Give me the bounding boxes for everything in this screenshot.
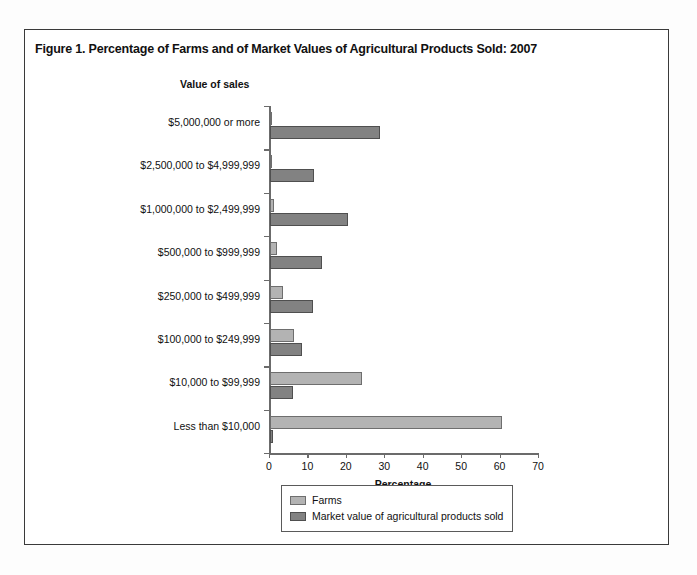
y-axis-tick bbox=[264, 280, 269, 281]
x-axis-tick-label: 30 bbox=[378, 460, 390, 472]
y-axis-tick-label: $5,000,000 or more bbox=[168, 116, 260, 128]
bar-market-value bbox=[270, 430, 273, 443]
y-axis-tick-label: $1,000,000 to $2,499,999 bbox=[140, 203, 260, 215]
x-axis-tick bbox=[500, 453, 501, 458]
bar-farms bbox=[270, 372, 362, 385]
bar-market-value bbox=[270, 386, 293, 399]
bar-farms bbox=[270, 242, 277, 255]
bar-group-row: $10,000 to $99,999 bbox=[269, 366, 538, 409]
legend-label: Farms bbox=[312, 494, 342, 506]
y-axis-tick bbox=[264, 193, 269, 194]
x-axis-tick-label: 0 bbox=[266, 460, 272, 472]
y-axis-title: Value of sales bbox=[180, 78, 249, 90]
bar-group-row: $2,500,000 to $4,999,999 bbox=[269, 149, 538, 192]
figure-panel: Figure 1. Percentage of Farms and of Mar… bbox=[24, 29, 669, 545]
bar-market-value bbox=[270, 213, 348, 226]
x-axis-tick bbox=[307, 453, 308, 458]
x-axis-tick bbox=[538, 453, 539, 458]
x-axis-tick-label: 70 bbox=[532, 460, 544, 472]
x-axis-tick bbox=[461, 453, 462, 458]
bar-chart-plot-area: $5,000,000 or more$2,500,000 to $4,999,9… bbox=[269, 106, 538, 453]
bar-farms bbox=[270, 199, 274, 212]
legend-swatch-icon bbox=[290, 512, 306, 521]
bar-group-row: $1,000,000 to $2,499,999 bbox=[269, 193, 538, 236]
y-axis-tick-label: $500,000 to $999,999 bbox=[158, 246, 260, 258]
bar-market-value bbox=[270, 126, 380, 139]
legend-item-market: Market value of agricultural products so… bbox=[290, 508, 504, 524]
bar-market-value bbox=[270, 343, 302, 356]
legend-swatch-icon bbox=[290, 496, 306, 505]
y-axis-tick bbox=[264, 453, 269, 454]
x-axis-tick-label: 50 bbox=[455, 460, 467, 472]
y-axis-tick bbox=[264, 236, 269, 237]
chart-legend: FarmsMarket value of agricultural produc… bbox=[281, 485, 513, 532]
x-axis-tick-label: 40 bbox=[417, 460, 429, 472]
bar-market-value bbox=[270, 256, 322, 269]
y-axis-tick-label: $2,500,000 to $4,999,999 bbox=[140, 159, 260, 171]
y-axis-tick-label: $10,000 to $99,999 bbox=[169, 376, 260, 388]
bar-group-row: Less than $10,000 bbox=[269, 410, 538, 453]
x-axis-tick-label: 20 bbox=[340, 460, 352, 472]
y-axis-tick bbox=[264, 410, 269, 411]
y-axis-tick bbox=[264, 323, 269, 324]
bar-group-row: $250,000 to $499,999 bbox=[269, 280, 538, 323]
bar-farms bbox=[270, 286, 283, 299]
y-axis-tick bbox=[264, 106, 269, 107]
bar-farms bbox=[270, 329, 294, 342]
bar-farms bbox=[270, 416, 502, 429]
legend-label: Market value of agricultural products so… bbox=[312, 510, 503, 522]
bar-farms bbox=[270, 155, 272, 168]
y-axis-tick-label: $250,000 to $499,999 bbox=[158, 290, 260, 302]
x-axis-tick bbox=[346, 453, 347, 458]
x-axis-tick bbox=[423, 453, 424, 458]
x-axis-tick bbox=[269, 453, 270, 458]
legend-item-farms: Farms bbox=[290, 492, 504, 508]
y-axis-tick-label: $100,000 to $249,999 bbox=[158, 333, 260, 345]
x-axis-line bbox=[269, 453, 539, 455]
bar-farms bbox=[270, 112, 272, 125]
x-axis-tick-label: 10 bbox=[302, 460, 314, 472]
bar-group-row: $500,000 to $999,999 bbox=[269, 236, 538, 279]
bar-market-value bbox=[270, 169, 314, 182]
bar-market-value bbox=[270, 300, 313, 313]
bar-group-row: $5,000,000 or more bbox=[269, 106, 538, 149]
x-axis-tick bbox=[384, 453, 385, 458]
y-axis-tick-label: Less than $10,000 bbox=[174, 420, 260, 432]
page-title: Figure 1. Percentage of Farms and of Mar… bbox=[35, 42, 537, 56]
y-axis-tick bbox=[264, 149, 269, 150]
bar-group-row: $100,000 to $249,999 bbox=[269, 323, 538, 366]
y-axis-tick bbox=[264, 366, 269, 367]
x-axis-tick-label: 60 bbox=[494, 460, 506, 472]
